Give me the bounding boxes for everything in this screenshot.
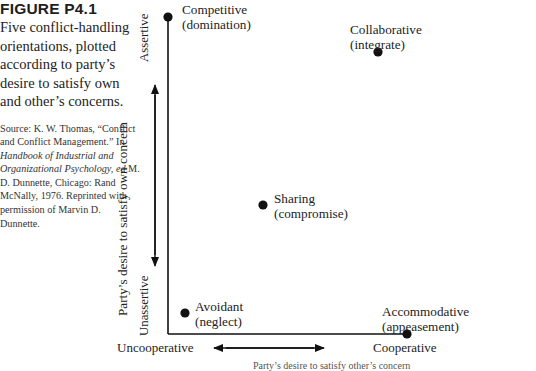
label-accommodative-line1: Accommodative [382, 305, 469, 320]
label-competitive: Competitive (domination) [182, 3, 251, 32]
point-sharing [258, 200, 267, 209]
label-sharing-line2: (compromise) [274, 207, 348, 222]
point-avoidant [180, 308, 189, 317]
label-sharing: Sharing (compromise) [274, 192, 348, 221]
label-sharing-line1: Sharing [274, 192, 348, 207]
label-collaborative: Collaborative (integrate) [350, 23, 422, 52]
label-accommodative-line2: (appeasement) [382, 320, 469, 335]
label-collaborative-line2: (integrate) [350, 38, 422, 53]
y-high-label: Assertive [137, 14, 152, 62]
label-collaborative-line1: Collaborative [350, 23, 422, 38]
point-competitive [163, 12, 172, 21]
label-competitive-line1: Competitive [182, 3, 251, 18]
x-axis-title: Party’s desire to satisfy other’s concer… [253, 360, 410, 371]
label-accommodative: Accommodative (appeasement) [382, 305, 469, 334]
y-axis-title: Party’s desire to satisfy own concern [115, 122, 131, 316]
label-avoidant-line1: Avoidant [195, 300, 243, 315]
x-high-label: Cooperative [373, 340, 437, 356]
label-competitive-line2: (domination) [182, 18, 251, 33]
label-avoidant: Avoidant (neglect) [195, 300, 243, 329]
x-low-label: Uncooperative [117, 340, 194, 356]
label-avoidant-line2: (neglect) [195, 315, 243, 330]
y-low-label: Unassertive [137, 276, 152, 336]
